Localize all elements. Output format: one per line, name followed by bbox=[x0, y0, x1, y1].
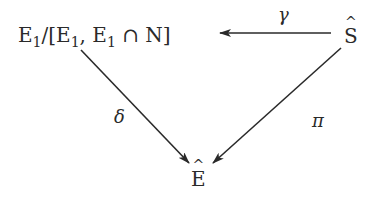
node-s-hat: S bbox=[344, 26, 358, 46]
symbol-e: E bbox=[18, 23, 33, 47]
subscript: 1 bbox=[71, 34, 80, 50]
symbol-e: E bbox=[92, 23, 107, 47]
label-delta: δ bbox=[114, 108, 125, 126]
intersection-n: ∩ N] bbox=[116, 23, 171, 47]
arrow-delta bbox=[81, 50, 189, 163]
e-hat: E bbox=[191, 169, 206, 189]
symbol-e: E bbox=[56, 23, 71, 47]
arrow-pi bbox=[213, 48, 341, 163]
label-pi: π bbox=[312, 112, 324, 130]
subscript: 1 bbox=[33, 34, 42, 50]
slash-bracket: /[ bbox=[42, 23, 57, 47]
s-hat: S bbox=[344, 26, 358, 46]
node-e-hat: E bbox=[191, 169, 206, 189]
node-quotient: E1/[E1, E1 ∩ N] bbox=[18, 25, 171, 49]
label-gamma: γ bbox=[278, 6, 289, 24]
subscript: 1 bbox=[107, 34, 116, 50]
comma: , bbox=[80, 23, 93, 47]
